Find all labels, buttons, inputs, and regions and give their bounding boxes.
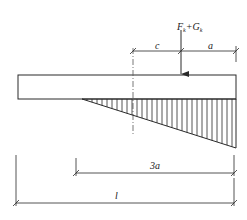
dim-a-label: a [208, 40, 213, 51]
dim-3a-label: 3a [149, 160, 160, 171]
base-pressure-diagram [82, 99, 236, 148]
dim-l [13, 155, 237, 206]
foundation-beam [18, 75, 236, 99]
dim-c-label: c [155, 40, 160, 51]
dim-l-label: l [115, 190, 118, 201]
foundation-diagram: Fk+Gk c a 3a l [0, 0, 247, 220]
load-label: Fk+Gk [176, 21, 203, 33]
top-dimension [130, 46, 239, 62]
